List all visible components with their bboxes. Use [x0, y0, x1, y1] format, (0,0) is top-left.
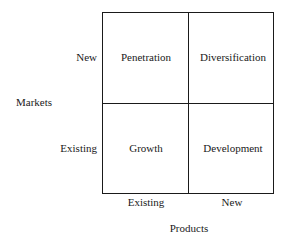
cell-development: Development — [203, 142, 262, 154]
x-axis-title: Products — [170, 222, 209, 234]
row-label-new: New — [76, 51, 97, 63]
column-label-existing: Existing — [128, 196, 165, 208]
cell-growth: Growth — [129, 142, 163, 154]
cell-diversification: Diversification — [200, 51, 266, 63]
cell-penetration: Penetration — [121, 51, 171, 63]
column-label-new: New — [222, 196, 243, 208]
row-label-existing: Existing — [60, 142, 97, 154]
horizontal-divider — [102, 103, 274, 104]
y-axis-title: Markets — [16, 96, 52, 108]
